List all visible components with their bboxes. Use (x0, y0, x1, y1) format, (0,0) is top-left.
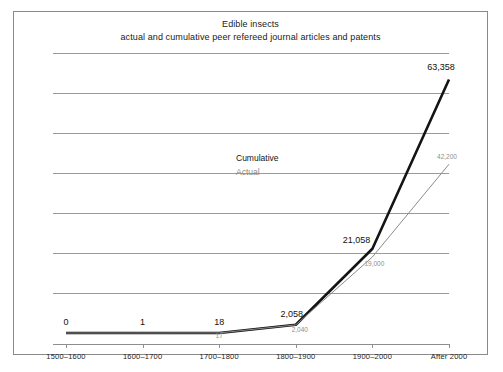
data-label-cumulative: 0 (63, 317, 68, 327)
series-label-actual: Actual (236, 167, 260, 177)
series-line-actual (66, 164, 449, 333)
chart-frame: Edible insects actual and cumulative pee… (13, 11, 488, 355)
x-axis-category-label: 1900–2000 (353, 352, 392, 361)
x-axis-category-label: After 2000 (431, 352, 468, 361)
series-lines (53, 53, 449, 333)
data-label-actual: 17 (216, 332, 223, 339)
data-label-cumulative: 21,058 (343, 235, 371, 245)
x-axis-category-label: 1700–1800 (200, 352, 239, 361)
x-axis-tick (372, 344, 373, 348)
x-axis-line (53, 344, 449, 345)
x-axis-tick (66, 344, 67, 348)
data-label-cumulative: 18 (214, 317, 224, 327)
x-axis-tick (296, 344, 297, 348)
data-label-actual: 42,200 (437, 153, 457, 160)
chart-subtitle: actual and cumulative peer refereed jour… (14, 31, 487, 44)
chart-title: Edible insects (14, 18, 487, 31)
series-label-cumulative: Cumulative (236, 153, 279, 163)
x-axis-category-label: 1600–1700 (123, 352, 162, 361)
data-label-actual: 2,040 (292, 326, 308, 333)
plot-area (53, 53, 449, 333)
x-axis-category-label: 1800–1900 (276, 352, 315, 361)
x-axis-tick (449, 344, 450, 348)
chart-title-block: Edible insects actual and cumulative pee… (14, 18, 487, 44)
data-label-cumulative: 63,358 (427, 62, 455, 72)
x-axis-tick (143, 344, 144, 348)
data-label-cumulative: 1 (140, 317, 145, 327)
data-label-cumulative: 2,058 (281, 309, 304, 319)
x-axis-tick (219, 344, 220, 348)
series-line-cumulative (66, 80, 449, 333)
data-label-actual: 19,000 (364, 260, 384, 267)
x-axis-category-label: 1500–1600 (46, 352, 85, 361)
